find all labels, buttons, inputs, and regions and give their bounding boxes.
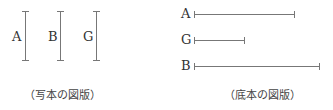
caption-base-text-figure: （底本の図版）: [224, 90, 301, 102]
label-a-right: A: [181, 7, 190, 21]
horizontal-bar-g: [194, 37, 245, 44]
vertical-bar-a: [22, 11, 29, 61]
horizontal-bar-a: [194, 11, 295, 18]
label-g-right: G: [181, 33, 191, 47]
label-b-left: B: [48, 30, 58, 44]
label-b-right: B: [181, 59, 191, 73]
vertical-bar-b: [57, 11, 64, 61]
label-a-left: A: [12, 30, 21, 44]
caption-manuscript-figure: （写本の図版）: [24, 90, 101, 102]
horizontal-bar-b: [194, 63, 320, 70]
vertical-bar-g: [93, 11, 100, 61]
label-g-left: G: [83, 30, 93, 44]
